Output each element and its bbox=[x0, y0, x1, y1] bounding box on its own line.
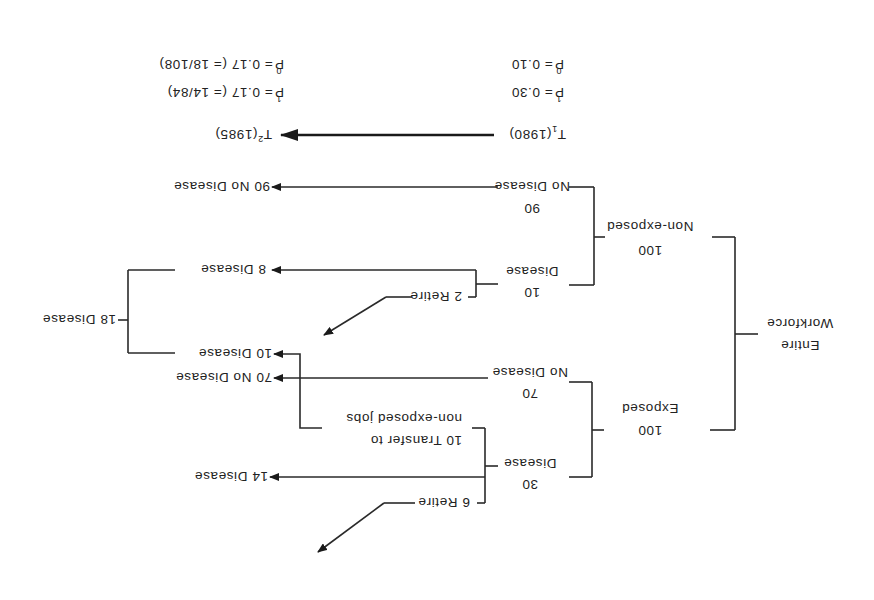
proportions-t2: P1= 0.17 (= 14/84) P0= 0.17 (= 18/108) bbox=[159, 57, 284, 104]
t1-symbol: T bbox=[557, 127, 566, 142]
t2-p0-value: = 0.17 (= 18/108) bbox=[159, 57, 273, 72]
exposed-label: Exposed bbox=[622, 401, 679, 416]
t1-p0-value: = 0.10 bbox=[511, 57, 553, 72]
nonexposed-label: Non-exposed bbox=[607, 219, 694, 234]
t1-p1: P1= 0.30 bbox=[511, 85, 564, 104]
nonexposed-outcome-disease: 8 Disease bbox=[201, 262, 266, 277]
flow-diagram: Entire Workforce 100 Exposed 30 Disease … bbox=[0, 0, 874, 600]
t1-year: (1980) bbox=[509, 127, 552, 142]
nonexposed-disease-count: 10 bbox=[524, 285, 540, 300]
exposed-count: 100 bbox=[638, 423, 662, 438]
exposed-retire-arrow bbox=[318, 503, 384, 552]
transfer-arrow bbox=[274, 354, 322, 428]
t2-p1-value: = 0.17 (= 14/84) bbox=[167, 85, 273, 100]
diagram-canvas: Entire Workforce 100 Exposed 30 Disease … bbox=[0, 0, 874, 600]
t1-p1-value: = 0.30 bbox=[511, 85, 553, 100]
t1-label: T1(1980) bbox=[509, 124, 566, 142]
nonexposed-nodisease-label: No Disease bbox=[494, 179, 570, 194]
transfer-label-line2: non-exposed jobs bbox=[346, 411, 462, 426]
exposed-outcome-disease: 14 Disease bbox=[194, 469, 268, 484]
t2-symbol: T bbox=[263, 127, 272, 142]
transfer-outcome-disease: 10 Disease bbox=[198, 346, 272, 361]
t1-p0-sub: 0 bbox=[556, 66, 562, 76]
exposed-nodisease-count: 70 bbox=[522, 386, 538, 401]
exposed-nodisease-label: No Disease bbox=[492, 365, 568, 380]
combined-disease: 18 Disease bbox=[42, 270, 175, 353]
t2-p1: P1= 0.17 (= 14/84) bbox=[167, 85, 284, 104]
t1-p1-sub: 1 bbox=[556, 94, 562, 104]
root-node: Entire Workforce bbox=[710, 237, 833, 430]
exposed-retire-label: 6 Retire bbox=[418, 495, 470, 510]
timeline: T1(1980) T2(1985) bbox=[215, 124, 566, 144]
nonexposed-disease-label: Disease bbox=[506, 264, 559, 279]
root-label-line2: Workforce bbox=[767, 316, 834, 331]
nonexposed-retire-label: 2 Retire bbox=[410, 289, 462, 304]
exposed-node: 100 Exposed 30 Disease 6 Retire 14 Disea… bbox=[176, 346, 679, 552]
t2-p1-sub: 1 bbox=[276, 94, 282, 104]
transfer-label-line1: 10 Transfer to bbox=[370, 433, 462, 448]
combined-outcome-label: 18 Disease bbox=[42, 312, 116, 327]
nonexposed-retire-arrow bbox=[324, 297, 386, 335]
nonexposed-outcome-nodisease: 90 No Disease bbox=[174, 179, 270, 194]
t2-p0-sub: 0 bbox=[276, 66, 282, 76]
proportions-t1: P1= 0.30 P0= 0.10 bbox=[511, 57, 564, 104]
nonexposed-count: 100 bbox=[638, 243, 662, 258]
exposed-disease-label: Disease bbox=[504, 456, 557, 471]
root-label-line1: Entire bbox=[781, 338, 820, 353]
nonexposed-nodisease-count: 90 bbox=[524, 201, 540, 216]
t2-year: (1985) bbox=[215, 127, 258, 142]
t2-p0: P0= 0.17 (= 18/108) bbox=[159, 57, 284, 76]
rotated-group: Entire Workforce 100 Exposed 30 Disease … bbox=[42, 57, 833, 552]
t1-p0: P0= 0.10 bbox=[511, 57, 564, 76]
exposed-disease-count: 30 bbox=[522, 477, 538, 492]
t2-label: T2(1985) bbox=[215, 127, 272, 144]
exposed-outcome-nodisease: 70 No Disease bbox=[176, 370, 272, 385]
nonexposed-node: 100 Non-exposed 10 Disease 2 Retire 8 Di… bbox=[174, 179, 694, 335]
